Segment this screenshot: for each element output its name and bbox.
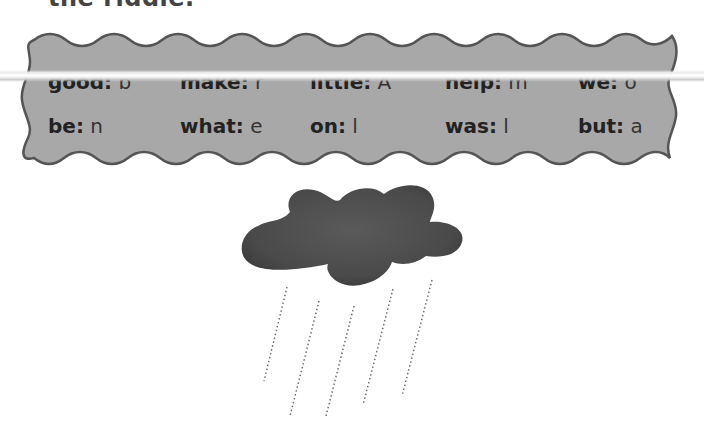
rain-drops (264, 280, 432, 416)
cloud-shape (242, 185, 463, 285)
rain-cloud-icon (0, 0, 704, 421)
